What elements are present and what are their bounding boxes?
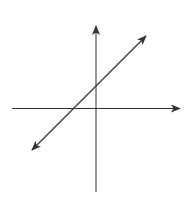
plotted-line — [89, 36, 146, 93]
coordinate-diagram — [0, 0, 193, 198]
plotted-line-lower — [32, 93, 89, 150]
